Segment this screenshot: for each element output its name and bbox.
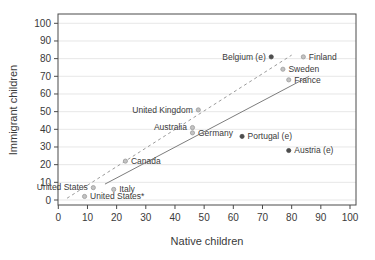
y-tick-label-80: 80	[40, 53, 52, 64]
data-point-sweden	[281, 67, 285, 71]
data-point-canada	[123, 159, 127, 163]
x-tick-label-40: 40	[169, 212, 181, 223]
point-label-portugal-e: Portugal (e)	[248, 131, 293, 141]
point-label-italy: Italy	[119, 184, 135, 194]
point-label-canada: Canada	[131, 156, 161, 166]
plot-frame	[58, 14, 356, 205]
point-label-sweden: Sweden	[288, 64, 319, 74]
x-tick-label-60: 60	[228, 212, 240, 223]
data-point-belgium-e	[269, 55, 273, 59]
data-point-finland	[301, 55, 305, 59]
y-tick-label-20: 20	[40, 159, 52, 170]
x-tick-label-50: 50	[199, 212, 211, 223]
x-tick-label-10: 10	[82, 212, 94, 223]
point-label-united-kingdom: United Kingdom	[132, 105, 192, 115]
data-point-germany	[190, 131, 194, 135]
figure: 0102030405060708090100 01020304050607080…	[0, 0, 375, 260]
y-axis-title: Immigrant children	[7, 65, 19, 155]
y-tick-label-30: 30	[40, 141, 52, 152]
data-point-united-states	[82, 194, 86, 198]
x-axis-title: Native children	[171, 235, 244, 247]
point-label-austria-e: Austria (e)	[294, 145, 333, 155]
point-label-france: France	[294, 75, 321, 85]
point-label-germany: Germany	[198, 128, 234, 138]
point-label-finland: Finland	[309, 52, 337, 62]
y-tick-label-40: 40	[40, 124, 52, 135]
data-point-united-kingdom	[196, 108, 200, 112]
y-tick-label-50: 50	[40, 106, 52, 117]
data-point-united-states	[91, 186, 95, 190]
plot-border	[58, 14, 356, 205]
data-point-portugal-e	[240, 134, 244, 138]
point-labels: United StatesUnited States*ItalyCanadaAu…	[37, 52, 337, 202]
y-tick-label-70: 70	[40, 71, 52, 82]
y-tick-label-100: 100	[34, 18, 51, 29]
y-tick-label-0: 0	[45, 195, 51, 206]
data-point-austria-e	[287, 148, 291, 152]
y-axis-ticks: 0102030405060708090100	[34, 18, 58, 206]
point-label-australia: Australia	[154, 122, 187, 132]
x-tick-label-70: 70	[257, 212, 269, 223]
x-tick-label-80: 80	[286, 212, 298, 223]
y-tick-label-90: 90	[40, 35, 52, 46]
scatter-plot: 0102030405060708090100 01020304050607080…	[0, 0, 375, 260]
x-tick-label-0: 0	[56, 212, 62, 223]
y-tick-label-60: 60	[40, 88, 52, 99]
point-label-united-states: United States	[37, 182, 88, 192]
data-point-france	[287, 78, 291, 82]
gridlines	[58, 23, 356, 200]
x-tick-label-90: 90	[315, 212, 327, 223]
point-label-belgium-e: Belgium (e)	[222, 52, 266, 62]
x-tick-label-20: 20	[111, 212, 123, 223]
x-axis-ticks: 0102030405060708090100	[56, 205, 359, 223]
data-point-australia	[190, 125, 194, 129]
point-label-united-states: United States*	[90, 191, 145, 201]
x-tick-label-30: 30	[140, 212, 152, 223]
x-tick-label-100: 100	[342, 212, 359, 223]
